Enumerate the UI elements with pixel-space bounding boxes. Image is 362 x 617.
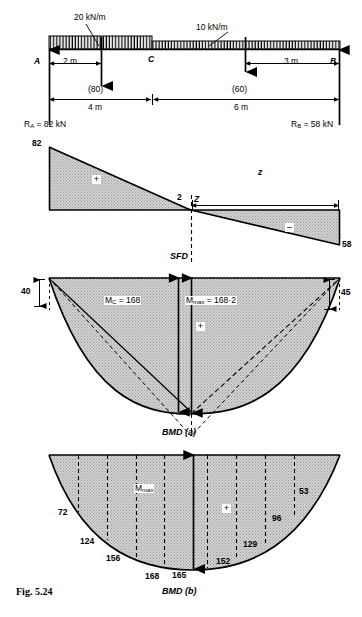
udl-10-label: 10 kN/m — [196, 23, 228, 32]
bmd-b-panel — [49, 455, 340, 570]
bmd-b-ordinate-label-4: 168 — [145, 572, 159, 581]
bmd-b-ordinate-label-6: 152 — [216, 557, 230, 566]
bmd-b-ordinate-label-5: 165 — [172, 571, 186, 580]
bmd-a-Mmax-value: = 168·2 — [204, 295, 235, 305]
dim-label-2m: 2 m — [63, 57, 77, 66]
point-label-C: C — [148, 55, 154, 64]
bmd-b-positive-sign: + — [222, 504, 231, 513]
udl-20-label: 20 kN/m — [74, 13, 106, 22]
reaction-A-value: = 82 kN — [34, 119, 66, 129]
bmd-a-positive-sign: + — [196, 322, 205, 331]
bmd-b-ordinate-label-9: 53 — [299, 487, 308, 496]
reaction-label-B: RB = 58 kN — [291, 120, 333, 129]
bmd-a-MC-label: MC = 168 — [104, 296, 141, 305]
support-label-A: A — [34, 57, 40, 66]
reaction-label-A: RA = 82 kN — [24, 120, 66, 129]
bmd-b-ordinate-label-3: 156 — [106, 554, 120, 563]
dim-label-6m: 6 m — [234, 103, 248, 112]
bmd-b-ordinate-label-2: 124 — [80, 537, 94, 546]
sfd-left-value: 82 — [32, 139, 41, 148]
figure-5-24: 20 kN/m 10 kN/m A B C 2 m 3 m (80) (60) … — [0, 0, 362, 617]
bmd-b-Mmax-label: Mmax — [134, 484, 154, 493]
resultant-label-60: (60) — [232, 85, 247, 94]
sfd-title: SFD — [170, 252, 188, 261]
sfd-positive-sign: + — [92, 175, 101, 184]
sfd-z-dim-label: z — [258, 168, 262, 177]
bmd-a-Mmax-label: Mmax = 168·2 — [185, 296, 237, 305]
sfd-zero-point-label: Z — [194, 195, 199, 204]
bmd-b-title: BMD (b) — [162, 587, 197, 596]
bmd-a-Mmax-subscript: max — [193, 299, 204, 305]
dim-label-3m: 3 m — [284, 57, 298, 66]
bmd-b-area — [49, 455, 340, 570]
bmd-a-right-value: 45 — [341, 288, 350, 297]
sfd-negative-sign: – — [285, 223, 294, 232]
sfd-zero-value: 2 — [177, 193, 182, 202]
resultant-label-80: (80) — [88, 85, 103, 94]
bmd-a-title: BMD (a) — [162, 428, 196, 437]
sfd-right-value: 58 — [342, 240, 351, 249]
bmd-a-MC-value: = 168 — [116, 295, 140, 305]
bmd-b-Mmax-subscript: max — [142, 487, 153, 493]
bmd-a-left-value: 40 — [21, 287, 30, 296]
bmd-b-ordinate-label-1: 72 — [58, 508, 67, 517]
support-label-B: B — [330, 57, 336, 66]
bmd-b-ordinate-label-7: 129 — [243, 540, 257, 549]
reaction-B-value: = 58 kN — [301, 119, 333, 129]
sfd-panel — [49, 147, 340, 262]
figure-caption: Fig. 5.24 — [16, 587, 52, 597]
bmd-b-ordinate-label-8: 96 — [272, 514, 281, 523]
dim-label-4m: 4 m — [88, 103, 102, 112]
udl-20-hatch — [49, 36, 152, 49]
figure-svg — [0, 0, 362, 617]
